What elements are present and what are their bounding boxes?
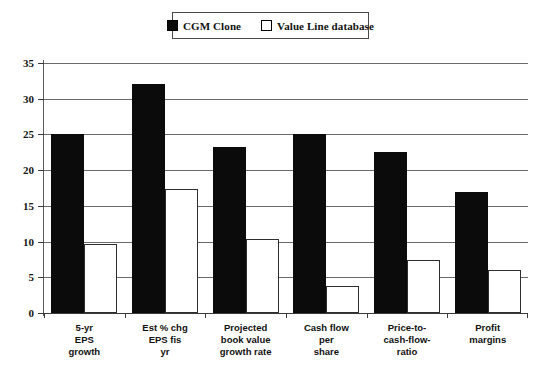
category-label-line: margins — [449, 334, 526, 346]
x-axis-category-labels: 5-yrEPSgrowthEst % chgEPS fisyrProjected… — [44, 322, 528, 367]
category-label-line: share — [288, 346, 365, 358]
category-label-line: EPS — [46, 334, 123, 346]
legend-swatch-icon-cgm-clone — [167, 20, 178, 31]
bar-value-line-database — [84, 244, 117, 313]
x-axis-category-label: Profitmargins — [447, 322, 528, 367]
bar-group — [447, 63, 528, 313]
legend-swatch-icon-value-line-database — [261, 20, 272, 31]
y-axis-tick-label: 20 — [8, 164, 34, 176]
category-label-line: yr — [127, 346, 204, 358]
x-axis-category-label: Cash flowpershare — [286, 322, 367, 367]
legend-label-cgm-clone: CGM Clone — [183, 20, 241, 32]
x-axis-tick-mark — [44, 313, 45, 318]
category-label-line: Price-to- — [369, 322, 446, 334]
bar-cgm-clone — [374, 152, 407, 313]
legend-label-value-line-database: Value Line database — [277, 20, 374, 32]
category-label-line: growth rate — [207, 346, 284, 358]
x-axis-tick-mark — [286, 313, 287, 318]
bar-value-line-database — [407, 260, 440, 313]
x-axis-tick-mark — [125, 313, 126, 318]
y-axis-tick-label: 5 — [8, 271, 34, 283]
bar-cgm-clone — [455, 192, 488, 313]
legend-entry-cgm-clone: CGM Clone — [167, 20, 241, 32]
bar-value-line-database — [326, 286, 359, 313]
bar-cgm-clone — [213, 147, 246, 313]
bar-value-line-database — [246, 239, 279, 313]
legend-entry-value-line-database: Value Line database — [261, 20, 374, 32]
category-label-line: growth — [46, 346, 123, 358]
x-axis-tick-mark — [527, 313, 528, 318]
x-axis-category-label: Est % chgEPS fisyr — [125, 322, 206, 367]
category-label-line: Projected — [207, 322, 284, 334]
y-axis-tick-label: 10 — [8, 236, 34, 248]
x-axis-tick-mark — [205, 313, 206, 318]
category-label-line: cash-flow- — [369, 334, 446, 346]
bar-cgm-clone — [51, 134, 84, 313]
x-axis-category-label: Price-to-cash-flow-ratio — [367, 322, 448, 367]
bar-group — [44, 63, 125, 313]
category-label-line: 5-yr — [46, 322, 123, 334]
bar-groups — [44, 63, 528, 313]
x-axis-category-label: 5-yrEPSgrowth — [44, 322, 125, 367]
category-label-line: ratio — [369, 346, 446, 358]
x-axis-tick-mark — [367, 313, 368, 318]
bar-group — [367, 63, 448, 313]
category-label-line: per — [288, 334, 365, 346]
chart-legend: CGM Clone Value Line database — [172, 12, 369, 39]
bar-cgm-clone — [293, 134, 326, 313]
y-axis-tick-label: 15 — [8, 200, 34, 212]
bar-value-line-database — [165, 189, 198, 313]
x-axis-tick-mark — [447, 313, 448, 318]
bar-value-line-database — [488, 270, 521, 313]
bar-cgm-clone — [132, 84, 165, 313]
bar-group — [125, 63, 206, 313]
y-axis-tick-label: 0 — [8, 307, 34, 319]
bar-group — [286, 63, 367, 313]
category-label-line: EPS fis — [127, 334, 204, 346]
y-axis-tick-label: 30 — [8, 93, 34, 105]
y-axis-tick-label: 35 — [8, 57, 34, 69]
y-axis-tick-label: 25 — [8, 128, 34, 140]
x-axis-category-label: Projectedbook valuegrowth rate — [205, 322, 286, 367]
category-label-line: book value — [207, 334, 284, 346]
category-label-line: Profit — [449, 322, 526, 334]
bar-group — [205, 63, 286, 313]
bar-chart: CGM Clone Value Line database 0510152025… — [0, 0, 542, 369]
category-label-line: Cash flow — [288, 322, 365, 334]
category-label-line: Est % chg — [127, 322, 204, 334]
